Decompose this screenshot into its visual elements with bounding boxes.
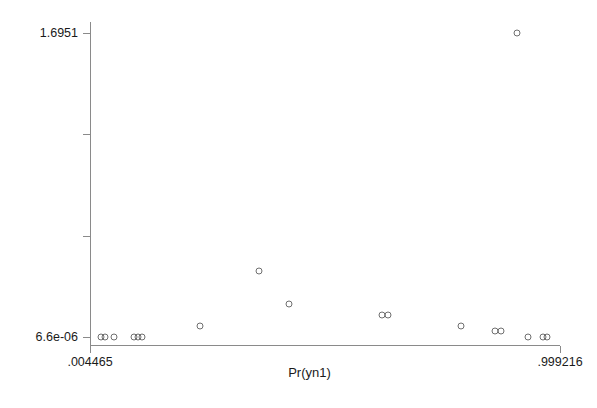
y-axis-tick [83, 236, 90, 237]
data-point [525, 334, 532, 341]
x-axis-tick [560, 346, 561, 353]
data-point [498, 328, 505, 335]
data-point [458, 323, 465, 330]
data-point [543, 334, 550, 341]
data-point [102, 334, 109, 341]
data-point [197, 323, 204, 330]
y-axis-tick-label: 1.6951 [0, 27, 78, 40]
y-axis-tick [83, 33, 90, 34]
y-axis-line [90, 22, 91, 345]
data-point [255, 267, 262, 274]
scatter-plot: 1.69516.6e-06.004465.999216 Pr(yn1) [0, 0, 597, 408]
data-point [111, 334, 118, 341]
y-axis-tick [83, 134, 90, 135]
data-point [514, 30, 521, 37]
x-axis-title-text: Pr(yn1) [288, 365, 331, 380]
x-axis-line [90, 345, 560, 346]
y-axis-tick-label: 6.6e-06 [0, 331, 78, 344]
y-axis-tick [83, 337, 90, 338]
data-point [385, 312, 392, 319]
x-axis-tick [90, 346, 91, 353]
x-axis-title: Pr(yn1) [0, 365, 597, 380]
data-point [138, 334, 145, 341]
data-point [285, 301, 292, 308]
